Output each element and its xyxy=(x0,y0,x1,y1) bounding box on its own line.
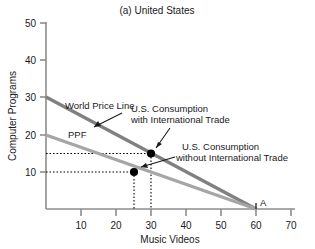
x-axis-title: Music Videos xyxy=(140,234,199,245)
x-axis-ticks: 10 20 30 40 50 60 70 xyxy=(75,209,297,231)
x-tick-label-10: 10 xyxy=(75,220,87,231)
y-tick-label-20: 20 xyxy=(25,130,37,141)
chart-container: (a) United States 10 20 30 40 50 xyxy=(0,0,315,249)
x-tick-label-40: 40 xyxy=(180,220,192,231)
world-price-line-leader xyxy=(94,113,122,127)
x-tick-label-20: 20 xyxy=(110,220,122,231)
page-title: (a) United States xyxy=(119,5,194,16)
y-tick-label-50: 50 xyxy=(25,18,37,29)
y-tick-label-10: 10 xyxy=(25,167,37,178)
x-tick-label-50: 50 xyxy=(215,220,227,231)
guide-lines xyxy=(46,154,151,210)
x-tick-label-70: 70 xyxy=(285,220,297,231)
y-axis-ticks: 10 20 30 40 50 xyxy=(25,18,46,178)
point-a-label: A xyxy=(260,197,267,208)
consumption-with-trade-leader xyxy=(156,128,170,148)
data-point-consumption-without-trade[interactable] xyxy=(130,168,138,176)
y-tick-label-30: 30 xyxy=(25,92,37,103)
consumption-without-trade-label-line2: without International Trade xyxy=(175,152,288,163)
united-states-ppf-chart: (a) United States 10 20 30 40 50 xyxy=(0,0,315,249)
y-axis-title: Computer Programs xyxy=(7,71,18,161)
world-price-line-label: World Price Line xyxy=(65,100,135,111)
consumption-with-trade-label-line1: U.S. Consumption xyxy=(131,103,208,114)
consumption-with-trade-label-line2: with International Trade xyxy=(130,114,230,125)
ppf-label: PPF xyxy=(68,129,87,140)
consumption-without-trade-label-line1: U.S. Consumption xyxy=(182,141,259,152)
y-tick-label-40: 40 xyxy=(25,55,37,66)
data-point-consumption-with-trade[interactable] xyxy=(147,149,155,157)
x-tick-label-30: 30 xyxy=(145,220,157,231)
x-tick-label-60: 60 xyxy=(250,220,262,231)
